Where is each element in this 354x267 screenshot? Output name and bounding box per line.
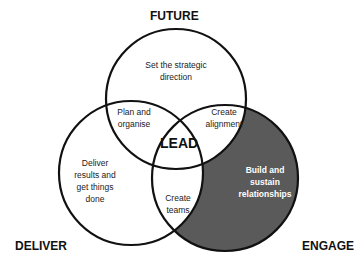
region-text-line: get things — [65, 181, 125, 193]
region-text-line: Deliver — [65, 157, 125, 169]
region-text-line: relationships — [225, 188, 305, 200]
region-text-line: Create — [150, 192, 206, 204]
region-future-only: Set the strategic direction — [130, 59, 222, 83]
future-title: FUTURE — [150, 9, 199, 23]
region-text-line: sustain — [225, 176, 305, 188]
region-text-line: direction — [130, 71, 222, 83]
region-deliver-engage: Create teams — [150, 192, 206, 216]
region-text-line: alignment — [194, 118, 254, 130]
region-text-line: results and — [65, 169, 125, 181]
region-text-line: Set the strategic — [130, 59, 222, 71]
region-text-line: Plan and — [104, 106, 164, 118]
region-text-line: teams — [150, 204, 206, 216]
region-future-engage: Create alignment — [194, 106, 254, 130]
region-text-line: done — [65, 193, 125, 205]
engage-title: ENGAGE — [302, 239, 354, 253]
center-lead-label: LEAD — [160, 135, 198, 151]
region-text-line: organise — [104, 118, 164, 130]
region-engage-only: Build and sustain relationships — [225, 164, 305, 200]
region-text-line: Create — [194, 106, 254, 118]
region-future-deliver: Plan and organise — [104, 106, 164, 130]
region-text-line: Build and — [225, 164, 305, 176]
region-deliver-only: Deliver results and get things done — [65, 157, 125, 205]
deliver-title: DELIVER — [15, 239, 67, 253]
